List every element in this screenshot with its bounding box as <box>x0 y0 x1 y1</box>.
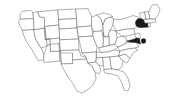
us-state-map-figure <box>0 0 174 109</box>
state-ny[interactable] <box>113 16 139 32</box>
marker-mid-atlantic-dot[interactable] <box>141 39 146 44</box>
marker-northeast-dot[interactable] <box>135 18 144 27</box>
state-ks[interactable] <box>60 39 79 51</box>
state-ia[interactable] <box>77 26 93 37</box>
state-or[interactable] <box>19 19 35 31</box>
state-me[interactable] <box>149 5 160 20</box>
state-wa[interactable] <box>21 11 34 20</box>
state-fl[interactable] <box>104 69 130 91</box>
state-wy[interactable] <box>45 25 60 40</box>
state-outlines-group <box>19 5 161 94</box>
state-mn[interactable] <box>76 9 92 28</box>
state-ri[interactable] <box>148 23 151 27</box>
state-sd[interactable] <box>59 19 77 30</box>
state-ne[interactable] <box>60 28 79 40</box>
state-nd[interactable] <box>58 9 77 20</box>
us-map-svg <box>0 0 174 109</box>
